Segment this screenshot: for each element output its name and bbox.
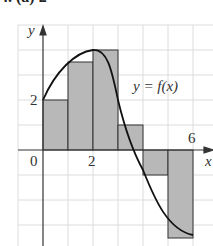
origin-label: 0 — [30, 153, 38, 170]
x-tick-2: 2 — [88, 153, 96, 170]
x-tick-6: 6 — [188, 130, 196, 147]
y-axis-label: y — [28, 22, 35, 39]
x-axis-label: x — [205, 153, 212, 170]
y-tick-2: 2 — [30, 92, 38, 109]
curve-label: y = f(x) — [133, 78, 178, 95]
